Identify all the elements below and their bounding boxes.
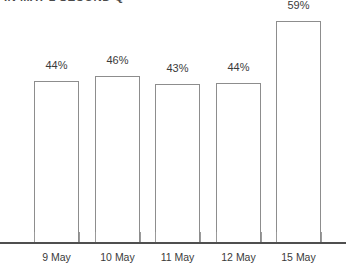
bar-value-label: 44%	[34, 59, 79, 71]
x-axis-line	[0, 242, 346, 244]
x-axis-label: 15 May	[268, 251, 329, 263]
bar-value-label: 43%	[155, 62, 200, 74]
bar	[155, 84, 200, 243]
x-axis-label: 12 May	[208, 251, 269, 263]
bar-value-label: 46%	[95, 54, 140, 66]
bar	[276, 21, 321, 243]
bar	[34, 81, 79, 243]
bar-value-label: 44%	[216, 61, 261, 73]
x-axis-label: 9 May	[26, 251, 87, 263]
x-axis-label: 11 May	[147, 251, 208, 263]
x-axis-label: 10 May	[87, 251, 148, 263]
bar	[216, 83, 261, 243]
bar	[95, 76, 140, 243]
bar-chart: IN MAY 2 SECOND Q 44%9 May46%10 May43%11…	[0, 0, 346, 277]
bar-value-label: 59%	[276, 0, 321, 11]
plot-area: 44%9 May46%10 May43%11 May44%12 May59%15…	[0, 0, 346, 277]
